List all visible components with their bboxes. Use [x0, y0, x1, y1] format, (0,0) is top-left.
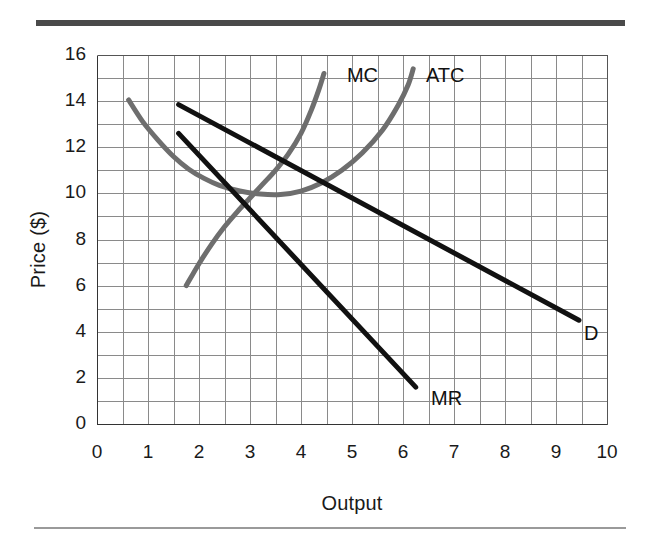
economics-chart-figure: Price ($) Output 012345678910 0246810121… — [0, 0, 651, 552]
y-tick-label: 12 — [48, 135, 86, 157]
y-tick-label: 0 — [48, 412, 86, 434]
x-tick-label: 6 — [383, 441, 423, 463]
x-tick-label: 7 — [434, 441, 474, 463]
curve-mr — [179, 133, 416, 387]
chart-plot-area — [0, 0, 651, 552]
y-tick-label: 8 — [48, 228, 86, 250]
y-tick-label: 6 — [48, 274, 86, 296]
x-tick-label: 1 — [128, 441, 168, 463]
x-axis-label: Output — [252, 492, 452, 515]
curve-label-mc: MC — [347, 64, 378, 87]
x-tick-label: 8 — [485, 441, 525, 463]
x-tick-label: 5 — [332, 441, 372, 463]
curve-label-d: D — [584, 322, 598, 345]
curve-label-mr: MR — [431, 387, 462, 410]
y-tick-label: 4 — [48, 320, 86, 342]
y-tick-label: 16 — [48, 43, 86, 65]
x-tick-label: 0 — [77, 441, 117, 463]
data-series-group — [129, 69, 579, 387]
y-tick-label: 14 — [48, 89, 86, 111]
curve-label-atc: ATC — [426, 64, 465, 87]
x-tick-label: 4 — [281, 441, 321, 463]
x-tick-label: 2 — [179, 441, 219, 463]
x-tick-label: 9 — [536, 441, 576, 463]
y-tick-label: 10 — [48, 181, 86, 203]
grid-minor-lines — [97, 55, 608, 425]
x-tick-label: 10 — [587, 441, 627, 463]
x-tick-label: 3 — [230, 441, 270, 463]
y-axis-label: Price ($) — [27, 185, 50, 315]
y-tick-label: 2 — [48, 366, 86, 388]
